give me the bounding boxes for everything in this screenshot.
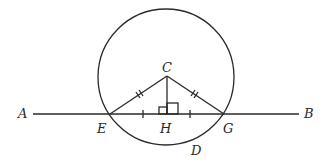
label-d: D: [190, 143, 202, 158]
label-c: C: [162, 60, 172, 75]
right-angle-marker-left: [159, 107, 167, 114]
label-e: E: [96, 121, 107, 136]
label-h: H: [159, 121, 172, 136]
label-b: B: [303, 106, 314, 121]
right-angle-marker-right: [167, 103, 178, 114]
label-a: A: [17, 106, 27, 121]
label-g: G: [223, 121, 233, 136]
geometry-diagram: A B C E H G D: [0, 0, 330, 167]
